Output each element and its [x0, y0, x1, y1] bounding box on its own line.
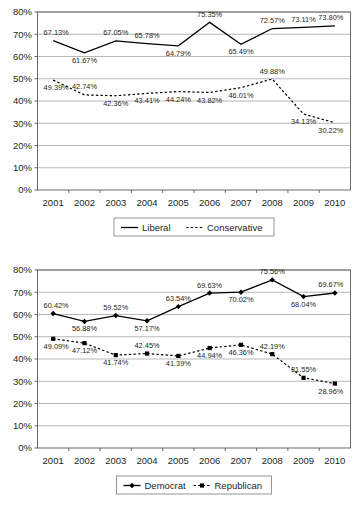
data-label-liberal-2010: 73.80% — [318, 13, 343, 22]
xtick-label-2010: 2010 — [324, 197, 345, 208]
marker-democrat-2006 — [207, 290, 212, 295]
data-label-conservative-2007: 46.01% — [228, 91, 253, 100]
ytick-label: 20% — [13, 140, 33, 151]
data-label-conservative-2003: 42.36% — [103, 99, 128, 108]
xtick-label-2003: 2003 — [105, 455, 126, 466]
xtick-label-2009: 2009 — [293, 197, 314, 208]
marker-democrat-2005 — [176, 304, 181, 309]
ytick-label: 10% — [13, 420, 33, 431]
marker-democrat-2003 — [113, 313, 118, 318]
data-label-liberal-2005: 64.79% — [166, 49, 191, 58]
marker-republican-2002 — [82, 341, 86, 345]
data-label-conservative-2006: 43.82% — [197, 96, 222, 105]
xtick-label-2001: 2001 — [43, 197, 64, 208]
legend-marker-republican — [200, 483, 204, 487]
xtick-label-2007: 2007 — [230, 197, 251, 208]
ytick-label: 80% — [13, 6, 33, 17]
data-label-democrat-2003: 59.52% — [103, 303, 128, 312]
marker-republican-2009 — [301, 376, 305, 380]
ytick-label: 20% — [13, 398, 33, 409]
xtick-label-2003: 2003 — [105, 197, 126, 208]
chart-liberal-conservative: 0%10%20%30%40%50%60%70%80%20012002200320… — [0, 0, 358, 258]
xtick-label-2008: 2008 — [262, 197, 283, 208]
data-label-democrat-2007: 70.02% — [228, 295, 253, 304]
ytick-label: 40% — [13, 95, 33, 106]
data-label-democrat-2001: 60.42% — [44, 301, 69, 310]
legend-label-republican: Republican — [215, 480, 263, 491]
xtick-label-2010: 2010 — [324, 455, 345, 466]
xtick-label-2008: 2008 — [262, 455, 283, 466]
data-label-republican-2002: 47.12% — [72, 346, 97, 355]
data-label-democrat-2006: 69.63% — [197, 281, 222, 290]
marker-republican-2006 — [208, 346, 212, 350]
data-label-republican-2007: 46.36% — [228, 348, 253, 357]
xtick-label-2007: 2007 — [230, 455, 251, 466]
data-label-conservative-2004: 43.41% — [135, 96, 160, 105]
data-label-democrat-2002: 56.88% — [72, 324, 97, 333]
data-label-liberal-2006: 75.35% — [197, 10, 222, 19]
ytick-label: 0% — [18, 184, 32, 195]
data-label-liberal-2008: 72.57% — [260, 16, 285, 25]
xtick-label-2006: 2006 — [199, 197, 220, 208]
data-label-republican-2004: 42.45% — [135, 341, 160, 350]
ytick-label: 0% — [18, 442, 32, 453]
marker-republican-2004 — [145, 351, 149, 355]
chart-page: 0%10%20%30%40%50%60%70%80%20012002200320… — [0, 0, 358, 517]
ytick-label: 70% — [13, 29, 33, 40]
data-label-conservative-2010: 30.22% — [318, 126, 343, 135]
data-label-republican-2003: 41.74% — [103, 358, 128, 367]
data-label-liberal-2009: 73.11% — [291, 15, 316, 24]
marker-democrat-2008 — [270, 277, 275, 282]
data-label-liberal-2002: 61.67% — [72, 56, 97, 65]
data-label-democrat-2008: 75.56% — [260, 267, 285, 276]
marker-democrat-2007 — [238, 290, 243, 295]
data-label-democrat-2005: 63.54% — [166, 294, 191, 303]
marker-democrat-2009 — [301, 294, 306, 299]
data-label-conservative-2009: 34.13% — [291, 117, 316, 126]
xtick-label-2002: 2002 — [74, 455, 95, 466]
chart-canvas-bottom: 0%10%20%30%40%50%60%70%80%20012002200320… — [0, 258, 358, 517]
data-label-democrat-2004: 57.17% — [135, 324, 160, 333]
data-label-democrat-2010: 69.67% — [318, 280, 343, 289]
xtick-label-2002: 2002 — [74, 197, 95, 208]
xtick-label-2006: 2006 — [199, 455, 220, 466]
marker-democrat-2002 — [82, 319, 87, 324]
data-label-conservative-2008: 49.88% — [260, 67, 285, 76]
marker-democrat-2004 — [144, 318, 149, 323]
data-label-republican-2010: 28.96% — [318, 387, 343, 396]
marker-republican-2005 — [176, 354, 180, 358]
ytick-label: 50% — [13, 73, 33, 84]
ytick-label: 30% — [13, 118, 33, 129]
marker-republican-2010 — [333, 381, 337, 385]
data-label-republican-2008: 42.19% — [260, 342, 285, 351]
xtick-label-2004: 2004 — [136, 197, 157, 208]
xtick-label-2004: 2004 — [136, 455, 157, 466]
chart-democrat-republican: 0%10%20%30%40%50%60%70%80%20012002200320… — [0, 258, 358, 517]
ytick-label: 60% — [13, 309, 33, 320]
data-label-democrat-2009: 68.04% — [291, 300, 316, 309]
legend-label-conservative: Conservative — [207, 222, 262, 233]
ytick-label: 10% — [13, 162, 33, 173]
ytick-label: 30% — [13, 376, 33, 387]
marker-republican-2008 — [270, 352, 274, 356]
data-label-republican-2005: 41.39% — [166, 359, 191, 368]
data-label-conservative-2001: 49.39% — [44, 83, 69, 92]
chart-canvas-top: 0%10%20%30%40%50%60%70%80%20012002200320… — [0, 0, 358, 258]
ytick-label: 60% — [13, 51, 33, 62]
marker-republican-2003 — [114, 353, 118, 357]
ytick-label: 40% — [13, 353, 33, 364]
marker-republican-2007 — [239, 343, 243, 347]
data-label-conservative-2002: 42.74% — [72, 82, 97, 91]
data-label-republican-2009: 31.55% — [291, 365, 316, 374]
ytick-label: 70% — [13, 287, 33, 298]
legend-label-liberal: Liberal — [142, 222, 171, 233]
xtick-label-2005: 2005 — [168, 455, 189, 466]
marker-democrat-2001 — [50, 311, 55, 316]
data-label-liberal-2004: 65.78% — [135, 31, 160, 40]
data-label-republican-2001: 49.09% — [44, 342, 69, 351]
legend-label-democrat: Democrat — [145, 480, 187, 491]
data-label-conservative-2005: 44.24% — [166, 95, 191, 104]
data-label-liberal-2003: 67.05% — [103, 28, 128, 37]
data-label-liberal-2001: 67.13% — [44, 28, 69, 37]
ytick-label: 80% — [13, 264, 33, 275]
